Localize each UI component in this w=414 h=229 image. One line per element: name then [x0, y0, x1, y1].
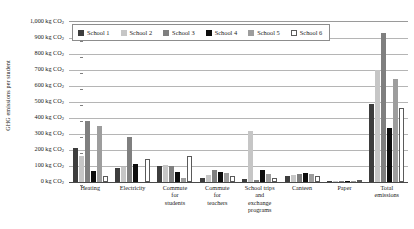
bar — [157, 166, 162, 182]
bar-group — [196, 22, 238, 182]
bar — [169, 166, 174, 182]
bar — [133, 164, 138, 182]
legend-item[interactable]: School 6 — [291, 29, 323, 36]
bar — [387, 128, 392, 182]
legend-label: School 5 — [257, 29, 280, 36]
y-axis-tick-label: 800 kg CO2 — [12, 49, 64, 58]
bar-group — [281, 22, 323, 182]
bar — [260, 170, 265, 182]
bar — [351, 181, 356, 182]
legend-item[interactable]: School 1 — [78, 29, 110, 36]
y-axis-tick-label: 100 kg CO2 — [12, 161, 64, 170]
legend-item[interactable]: School 5 — [248, 29, 280, 36]
y-axis-title-text: GHG emissions per student — [4, 60, 11, 131]
bar — [266, 174, 271, 182]
bar — [230, 176, 235, 182]
legend-swatch-icon — [206, 30, 212, 36]
bar — [291, 175, 296, 182]
bar-group — [69, 22, 111, 182]
bar — [79, 156, 84, 182]
legend-label: School 4 — [215, 29, 238, 36]
y-axis-tick-label: 600 kg CO2 — [12, 81, 64, 90]
y-axis-tick-label: 1,000 kg CO2 — [12, 17, 64, 26]
y-axis-tick-label: 0 kg CO2 — [12, 177, 64, 186]
legend-item[interactable]: School 3 — [163, 29, 195, 36]
y-axis-tick-label: 900 kg CO2 — [12, 33, 64, 42]
x-axis-category-label: School tripsandexchangeprograms — [239, 184, 281, 214]
legend-label: School 1 — [87, 29, 110, 36]
x-axis-line — [69, 182, 408, 183]
bar — [103, 176, 108, 182]
bar — [145, 159, 150, 182]
bar-group — [366, 22, 408, 182]
bar — [248, 131, 253, 182]
bar-group — [239, 22, 281, 182]
y-axis-tick-label: 300 kg CO2 — [12, 129, 64, 138]
bar — [218, 172, 223, 182]
ghg-emissions-bar-chart: GHG emissions per student 1,000 kg CO290… — [0, 0, 414, 229]
y-axis-tick-label: 200 kg CO2 — [12, 145, 64, 154]
bar — [339, 181, 344, 182]
bar-groups — [69, 22, 408, 182]
bar — [91, 171, 96, 182]
legend-swatch-icon — [291, 30, 297, 36]
legend-label: School 2 — [130, 29, 153, 36]
legend-label: School 6 — [300, 29, 323, 36]
y-axis-tick-labels: 1,000 kg CO2900 kg CO2800 kg CO2700 kg C… — [14, 17, 68, 185]
bar — [399, 108, 404, 182]
y-axis-tick-label: 700 kg CO2 — [12, 65, 64, 74]
bar — [224, 173, 229, 182]
bar — [303, 173, 308, 182]
bar — [254, 180, 259, 182]
bar — [315, 176, 320, 182]
bar-group — [111, 22, 153, 182]
bar — [181, 178, 186, 182]
bar-group — [323, 22, 365, 182]
x-axis-category-label: Paper — [323, 184, 365, 214]
bar — [175, 172, 180, 182]
y-axis-tick-label: 500 kg CO2 — [12, 97, 64, 106]
bar — [121, 167, 126, 182]
legend-label: School 3 — [172, 29, 195, 36]
bar — [73, 148, 78, 182]
bar — [309, 174, 314, 182]
bar — [97, 126, 102, 182]
bar — [200, 178, 205, 182]
bar — [242, 179, 247, 182]
x-axis-category-label: Totalemissions — [366, 184, 408, 214]
legend-swatch-icon — [163, 30, 169, 36]
bar — [285, 176, 290, 182]
bar — [163, 165, 168, 182]
bar — [187, 156, 192, 182]
x-axis-category-label: Commuteforteachers — [196, 184, 238, 214]
bar — [327, 181, 332, 182]
x-axis-category-labels: HeatingElectricityCommuteforstudentsComm… — [69, 184, 408, 214]
bar — [297, 174, 302, 182]
bar — [115, 168, 120, 182]
legend-item[interactable]: School 2 — [121, 29, 153, 36]
bar — [85, 121, 90, 182]
bar — [345, 181, 350, 182]
bar — [381, 33, 386, 182]
y-axis-tick-label: 400 kg CO2 — [12, 113, 64, 122]
legend-swatch-icon — [78, 30, 84, 36]
bar-group — [154, 22, 196, 182]
legend-swatch-icon — [121, 30, 127, 36]
x-axis-category-label: Commuteforstudents — [154, 184, 196, 214]
legend-swatch-icon — [248, 30, 254, 36]
x-axis-category-label: Canteen — [281, 184, 323, 214]
bar — [272, 178, 277, 182]
x-axis-category-label: Electricity — [111, 184, 153, 214]
bar — [212, 170, 217, 182]
legend-item[interactable]: School 4 — [206, 29, 238, 36]
bar — [127, 137, 132, 182]
bar — [206, 175, 211, 182]
x-axis-category-label: Heating — [69, 184, 111, 214]
bar — [357, 180, 362, 182]
bar — [333, 181, 338, 182]
plot-area — [69, 21, 408, 182]
bar — [375, 70, 380, 182]
chart-legend: School 1School 2School 3School 4School 5… — [72, 24, 330, 41]
bar — [393, 79, 398, 182]
bar — [369, 104, 374, 182]
